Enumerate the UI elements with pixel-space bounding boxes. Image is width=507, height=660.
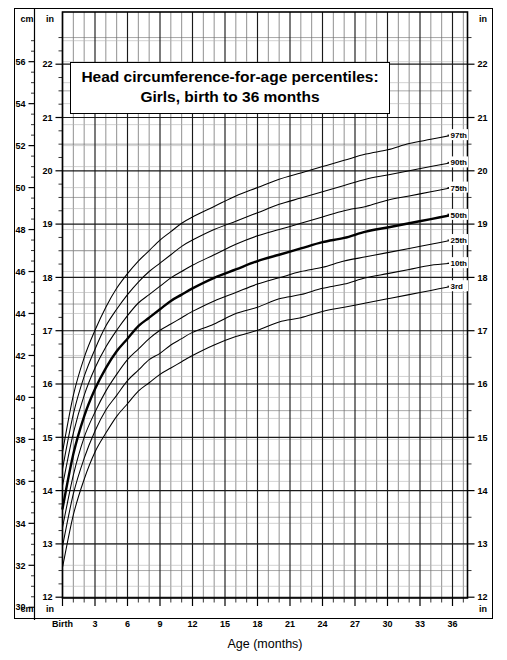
svg-text:18: 18	[478, 273, 488, 283]
svg-text:3: 3	[92, 619, 97, 629]
svg-text:54: 54	[15, 99, 25, 109]
svg-text:Birth: Birth	[52, 619, 73, 629]
svg-text:38: 38	[15, 435, 25, 445]
svg-text:12: 12	[42, 592, 52, 602]
svg-text:50: 50	[15, 183, 25, 193]
svg-text:9: 9	[157, 619, 162, 629]
svg-text:16: 16	[42, 379, 52, 389]
svg-text:44: 44	[15, 309, 25, 319]
svg-text:6: 6	[125, 619, 130, 629]
chart-title-box: Head circumference-for-age percentiles: …	[70, 62, 390, 114]
svg-text:20: 20	[478, 166, 488, 176]
svg-text:in: in	[479, 14, 487, 24]
chart-title-line-1: Head circumference-for-age percentiles:	[77, 67, 383, 87]
percentile-label-97th: 97th	[451, 131, 468, 140]
svg-text:15: 15	[478, 433, 488, 443]
left-inch-ticks	[56, 38, 63, 598]
svg-text:12: 12	[478, 592, 488, 602]
svg-text:18: 18	[42, 273, 52, 283]
svg-text:30: 30	[382, 619, 392, 629]
percentile-label-90th: 90th	[451, 158, 468, 167]
svg-text:22: 22	[478, 59, 488, 69]
svg-text:15: 15	[42, 433, 52, 443]
svg-text:34: 34	[15, 519, 25, 529]
svg-text:14: 14	[478, 486, 488, 496]
svg-text:40: 40	[15, 393, 25, 403]
percentile-label-10th: 10th	[451, 259, 468, 268]
right-inch-ticks	[468, 38, 475, 598]
svg-text:46: 46	[15, 267, 25, 277]
svg-text:21: 21	[285, 619, 295, 629]
percentile-label-75th: 75th	[451, 184, 468, 193]
svg-text:17: 17	[42, 326, 52, 336]
percentile-label-25th: 25th	[451, 236, 468, 245]
svg-text:16: 16	[478, 379, 488, 389]
percentile-curve-labels: 97th90th75th50th25th10th3rd	[449, 129, 468, 291]
svg-text:22: 22	[42, 59, 52, 69]
svg-text:27: 27	[350, 619, 360, 629]
svg-text:15: 15	[220, 619, 230, 629]
svg-text:13: 13	[478, 539, 488, 549]
svg-text:24: 24	[317, 619, 327, 629]
svg-text:19: 19	[478, 219, 488, 229]
svg-text:14: 14	[42, 486, 52, 496]
svg-text:cm: cm	[20, 14, 33, 24]
svg-text:48: 48	[15, 225, 25, 235]
svg-text:21: 21	[478, 113, 488, 123]
svg-text:21: 21	[42, 113, 52, 123]
svg-text:20: 20	[42, 166, 52, 176]
growth-chart-page: 97th90th75th50th25th10th3rd 121314151617…	[0, 0, 507, 660]
svg-text:in: in	[46, 14, 54, 24]
bottom-month-ticks	[63, 598, 464, 606]
svg-text:36: 36	[15, 477, 25, 487]
svg-text:17: 17	[478, 326, 488, 336]
svg-text:13: 13	[42, 539, 52, 549]
horizontal-minor-gridlines	[63, 38, 468, 587]
percentile-label-50th: 50th	[451, 211, 468, 220]
svg-text:19: 19	[42, 219, 52, 229]
svg-text:in: in	[46, 604, 54, 614]
svg-text:56: 56	[15, 57, 25, 67]
svg-text:42: 42	[15, 351, 25, 361]
svg-text:12: 12	[187, 619, 197, 629]
svg-text:cm: cm	[20, 604, 33, 614]
svg-text:in: in	[479, 604, 487, 614]
chart-title-line-2: Girls, birth to 36 months	[77, 87, 383, 107]
svg-text:Age (months): Age (months)	[227, 637, 302, 651]
percentile-label-3rd: 3rd	[451, 282, 464, 291]
svg-text:33: 33	[415, 619, 425, 629]
svg-text:18: 18	[252, 619, 262, 629]
svg-text:36: 36	[447, 619, 457, 629]
svg-text:32: 32	[15, 561, 25, 571]
svg-text:52: 52	[15, 141, 25, 151]
left-cm-ticks	[29, 41, 35, 608]
